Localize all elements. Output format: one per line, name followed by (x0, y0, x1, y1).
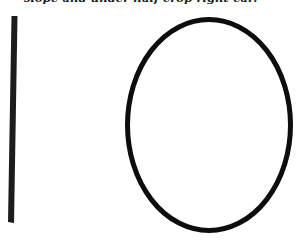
vertical-bar-shape (8, 16, 18, 223)
diagram-canvas (0, 0, 302, 246)
ellipse-shape (128, 20, 291, 231)
